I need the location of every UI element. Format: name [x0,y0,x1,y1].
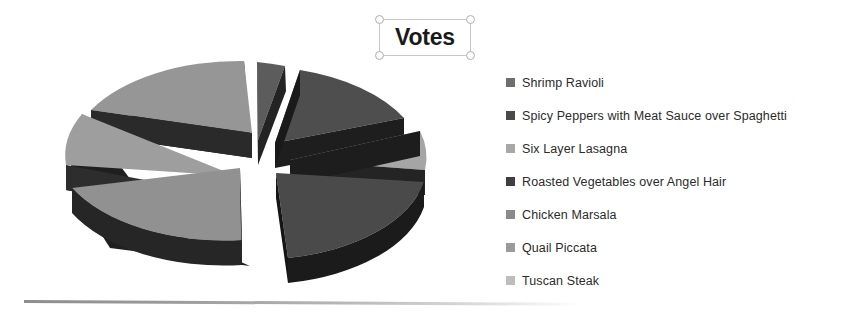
legend-item-label: Spicy Peppers with Meat Sauce over Spagh… [522,109,787,123]
legend-item-label: Shrimp Ravioli [522,76,604,90]
legend-swatch-icon [506,276,515,285]
legend-swatch-icon [506,177,515,186]
legend-item-shrimp-ravioli[interactable]: Shrimp Ravioli [506,66,851,99]
horizontal-divider [24,300,580,306]
legend-swatch-icon [506,144,515,153]
legend-item-roasted-vegetables[interactable]: Roasted Vegetables over Angel Hair [506,165,851,198]
legend-swatch-icon [506,78,515,87]
legend-item-label: Chicken Marsala [522,208,617,222]
legend-swatch-icon [506,111,515,120]
legend-item-tuscan-steak[interactable]: Tuscan Steak [506,264,851,297]
legend-swatch-icon [506,243,515,252]
legend-item-label: Roasted Vegetables over Angel Hair [522,175,726,189]
legend-item-label: Six Layer Lasagna [522,142,627,156]
chart-legend[interactable]: Shrimp Ravioli Spicy Peppers with Meat S… [506,66,851,297]
legend-item-quail-piccata[interactable]: Quail Piccata [506,231,851,264]
chart-screenshot: Votes [0,0,856,316]
legend-item-label: Tuscan Steak [522,274,599,288]
legend-item-six-layer-lasagna[interactable]: Six Layer Lasagna [506,132,851,165]
pie-chart-plot-area[interactable] [0,48,500,298]
legend-swatch-icon [506,210,515,219]
legend-item-label: Quail Piccata [522,241,597,255]
pie-slice-roasted-vegetables[interactable] [276,173,424,283]
selection-handle-top-right-icon[interactable] [466,15,475,24]
legend-item-spicy-peppers[interactable]: Spicy Peppers with Meat Sauce over Spagh… [506,99,851,132]
pie-chart-svg [0,48,500,298]
selection-handle-top-left-icon[interactable] [375,15,384,24]
legend-item-chicken-marsala[interactable]: Chicken Marsala [506,198,851,231]
